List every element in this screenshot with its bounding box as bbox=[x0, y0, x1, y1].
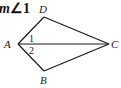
vertex-label-c: C bbox=[111, 38, 119, 50]
kite-diagram: D A C B 1 2 bbox=[0, 0, 121, 88]
segment-dc bbox=[44, 17, 109, 44]
segment-cb bbox=[44, 44, 109, 71]
angle-label-2: 2 bbox=[29, 45, 34, 56]
angle-label-1: 1 bbox=[29, 33, 34, 44]
vertex-label-a: A bbox=[3, 38, 11, 50]
kite-segments bbox=[18, 17, 109, 71]
vertex-label-b: B bbox=[40, 74, 47, 86]
vertex-label-d: D bbox=[38, 3, 47, 15]
